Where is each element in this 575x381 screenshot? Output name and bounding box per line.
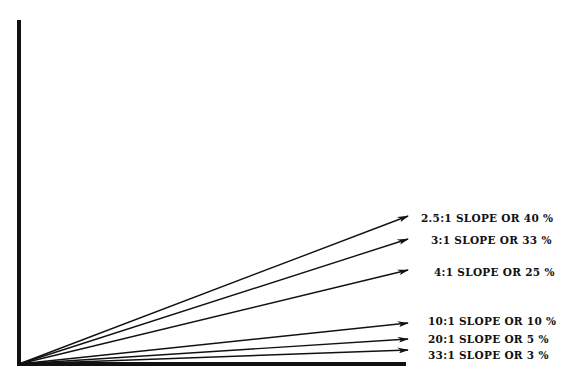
slope-arrow-10-1 — [19, 323, 408, 364]
slope-label-20-to-1: 20:1 SLOPE OR 5 % — [428, 333, 549, 345]
slope-lines-group — [19, 216, 408, 364]
slope-arrow-2-5-1 — [19, 216, 408, 364]
slope-label-3-to-1: 3:1 SLOPE OR 33 % — [431, 234, 552, 246]
slope-label-2-5-to-1: 2.5:1 SLOPE OR 40 % — [421, 212, 553, 224]
slope-arrow-3-1 — [19, 239, 408, 364]
slope-label-10-to-1: 10:1 SLOPE OR 10 % — [428, 315, 556, 327]
slope-label-4-to-1: 4:1 SLOPE OR 25 % — [434, 266, 555, 278]
slope-label-33-to-1: 33:1 SLOPE OR 3 % — [428, 349, 549, 361]
slope-arrow-4-1 — [19, 270, 408, 364]
